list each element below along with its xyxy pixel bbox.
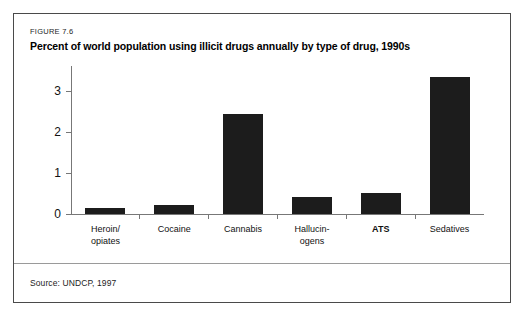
footer-divider xyxy=(14,263,510,264)
x-axis-category-label: Sedatives xyxy=(430,224,470,234)
x-axis-category-label: Cocaine xyxy=(158,224,191,234)
y-axis-tick-label: 3 xyxy=(54,84,61,98)
x-axis-category-label: opiates xyxy=(91,236,121,246)
y-axis-tick-label: 2 xyxy=(54,125,61,139)
y-axis-tick-label: 1 xyxy=(54,166,61,180)
bar xyxy=(223,114,263,214)
x-axis-category-label: Heroin/ xyxy=(91,224,121,234)
bar xyxy=(85,208,125,214)
source-note: Source: UNDCP, 1997 xyxy=(30,278,116,288)
figure-frame: FIGURE 7.6 Percent of world population u… xyxy=(13,13,511,303)
bar xyxy=(430,77,470,214)
x-axis-category-label: Hallucin- xyxy=(294,224,329,234)
x-axis-category-label: ATS xyxy=(372,224,389,234)
y-axis-tick-label: 0 xyxy=(54,207,61,221)
bar xyxy=(292,197,332,214)
bar xyxy=(154,205,194,214)
bar xyxy=(361,193,401,214)
bar-chart-plot: 0123Heroin/opiatesCocaineCannabisHalluci… xyxy=(14,14,512,304)
x-axis-category-label: Cannabis xyxy=(224,224,263,234)
bar-chart-svg: 0123Heroin/opiatesCocaineCannabisHalluci… xyxy=(14,14,512,304)
x-axis-category-label: ogens xyxy=(300,236,325,246)
